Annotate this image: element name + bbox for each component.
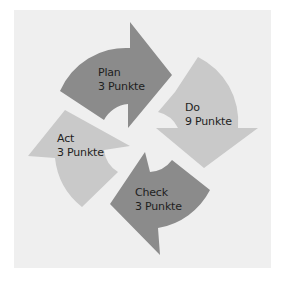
pdca-cycle [0, 0, 283, 281]
step-check-score: 3 Punkte [135, 200, 182, 214]
step-act: Act 3 Punkte [57, 132, 104, 160]
step-plan-score: 3 Punkte [98, 80, 145, 94]
step-do-score: 9 Punkte [185, 115, 232, 129]
step-act-name: Act [57, 132, 104, 146]
step-check: Check 3 Punkte [135, 186, 182, 214]
step-do: Do 9 Punkte [185, 101, 232, 129]
step-plan-name: Plan [98, 66, 145, 80]
step-plan: Plan 3 Punkte [98, 66, 145, 94]
step-check-name: Check [135, 186, 182, 200]
step-do-name: Do [185, 101, 232, 115]
step-act-score: 3 Punkte [57, 146, 104, 160]
